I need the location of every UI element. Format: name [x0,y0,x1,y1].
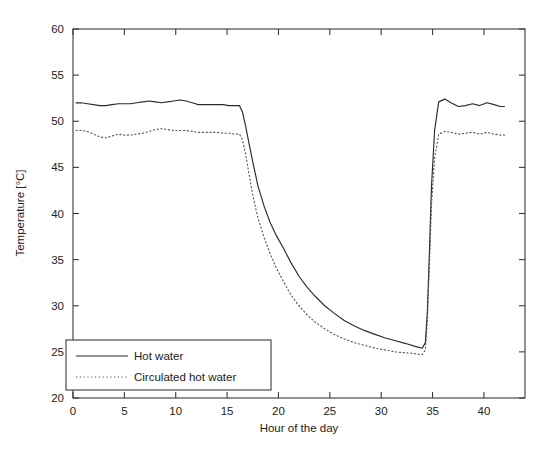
x-axis-title: Hour of the day [260,422,339,434]
y-tick-label: 45 [51,161,64,173]
x-tick-label: 10 [169,405,182,417]
x-tick-label: 5 [121,405,127,417]
legend-label-1[interactable]: Circulated hot water [134,371,236,383]
y-tick-label: 30 [51,300,64,312]
x-tick-label: 15 [221,405,234,417]
legend-label-0[interactable]: Hot water [134,350,183,362]
x-tick-label: 0 [70,405,76,417]
chart-legend[interactable]: Hot waterCirculated hot water [66,340,271,390]
y-tick-label: 20 [51,392,64,404]
y-axis-title: Temperature [°C] [14,169,26,256]
x-tick-label: 20 [272,405,285,417]
y-tick-label: 25 [51,346,64,358]
x-tick-label: 25 [323,405,336,417]
line-chart: 202530354045505560 0510152025303540 Hot … [0,0,551,453]
y-tick-label: 50 [51,115,64,127]
x-tick-label: 40 [478,405,491,417]
y-tick-label: 35 [51,254,64,266]
y-tick-label: 55 [51,69,64,81]
y-tick-label: 60 [51,23,64,35]
chart-figure: 202530354045505560 0510152025303540 Hot … [0,0,551,453]
x-tick-label: 35 [426,405,439,417]
x-tick-label: 30 [375,405,388,417]
y-tick-label: 40 [51,208,64,220]
